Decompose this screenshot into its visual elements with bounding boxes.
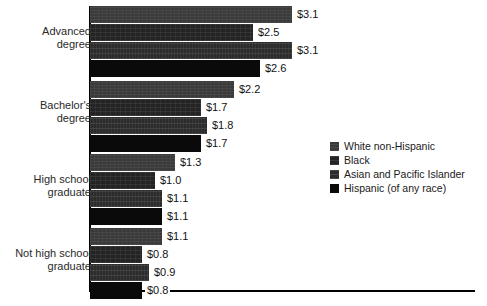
category-label-advanced-degree: Advanced degree [0, 25, 91, 51]
bar-value-label: $2.2 [237, 82, 262, 97]
legend-item-hispanic-of-any-race: Hispanic (of any race) [330, 182, 482, 194]
bar-chart: Advanced degree Bachelor's degree High s… [0, 0, 487, 306]
bar-group-not-high-school-graduate: $1.1$0.8$0.9$0.8 [90, 228, 475, 300]
bar [90, 81, 234, 98]
bar-value-label: $2.5 [256, 25, 281, 40]
legend-swatch-icon [330, 184, 339, 193]
legend-item-black: Black [330, 154, 482, 166]
legend-item-label: Black [344, 154, 370, 166]
bar-row: $3.1 [90, 42, 475, 59]
legend: White non-Hispanic Black Asian and Pacif… [330, 140, 482, 196]
category-label-line: degree [0, 112, 91, 125]
bar-row: $0.8 [90, 282, 475, 299]
bar [90, 42, 292, 59]
legend-item-asian-and-pacific-islander: Asian and Pacific Islander [330, 168, 482, 180]
bar-row: $2.6 [90, 60, 475, 77]
bar-value-label: $2.6 [263, 61, 288, 76]
legend-swatch-icon [330, 142, 339, 151]
bar [90, 246, 142, 263]
legend-swatch-icon [330, 156, 339, 165]
category-label-line: graduate [0, 186, 91, 199]
bar [90, 154, 175, 171]
category-label-high-school-graduate: High school graduate [0, 173, 91, 199]
bar-value-label: $0.8 [145, 283, 170, 298]
legend-item-label: Hispanic (of any race) [344, 182, 446, 194]
category-label-line: degree [0, 38, 91, 51]
bar-row: $3.1 [90, 6, 475, 23]
bar-row: $2.5 [90, 24, 475, 41]
legend-item-label: Asian and Pacific Islander [344, 168, 465, 180]
bar [90, 228, 162, 245]
legend-item-label: White non-Hispanic [344, 140, 435, 152]
category-label-line: High school [0, 173, 91, 186]
bar [90, 117, 207, 134]
bar [90, 208, 162, 225]
bar-row: $1.1 [90, 208, 475, 225]
bar [90, 135, 201, 152]
bar [90, 6, 292, 23]
bar-value-label: $1.7 [204, 100, 229, 115]
bar-value-label: $1.7 [204, 136, 229, 151]
legend-swatch-icon [330, 170, 339, 179]
category-label-line: graduate [0, 260, 91, 273]
legend-item-white-non-hispanic: White non-Hispanic [330, 140, 482, 152]
bar-value-label: $1.3 [178, 155, 203, 170]
bar-row: $1.1 [90, 228, 475, 245]
bar-row: $0.8 [90, 246, 475, 263]
bar [90, 282, 142, 299]
bar-value-label: $3.1 [295, 43, 320, 58]
bar-row: $1.8 [90, 117, 475, 134]
bar-row: $2.2 [90, 81, 475, 98]
bar-value-label: $3.1 [295, 7, 320, 22]
bar-group-advanced-degree: $3.1$2.5$3.1$2.6 [90, 6, 475, 78]
bar [90, 190, 162, 207]
bar [90, 172, 155, 189]
category-label-line: Not high school [0, 247, 91, 260]
category-label-bachelors-degree: Bachelor's degree [0, 99, 91, 125]
bar-row: $1.7 [90, 99, 475, 116]
category-label-line: Advanced [0, 25, 91, 38]
bar-value-label: $1.8 [210, 118, 235, 133]
bar [90, 264, 149, 281]
bar-value-label: $0.8 [145, 247, 170, 262]
category-label-line: Bachelor's [0, 99, 91, 112]
bar [90, 24, 253, 41]
bar [90, 99, 201, 116]
bar-value-label: $1.0 [158, 173, 183, 188]
bar-value-label: $0.9 [152, 265, 177, 280]
bar-value-label: $1.1 [165, 209, 190, 224]
bar [90, 60, 260, 77]
category-label-not-high-school-graduate: Not high school graduate [0, 247, 91, 273]
bar-value-label: $1.1 [165, 191, 190, 206]
bar-row: $0.9 [90, 264, 475, 281]
bar-value-label: $1.1 [165, 229, 190, 244]
